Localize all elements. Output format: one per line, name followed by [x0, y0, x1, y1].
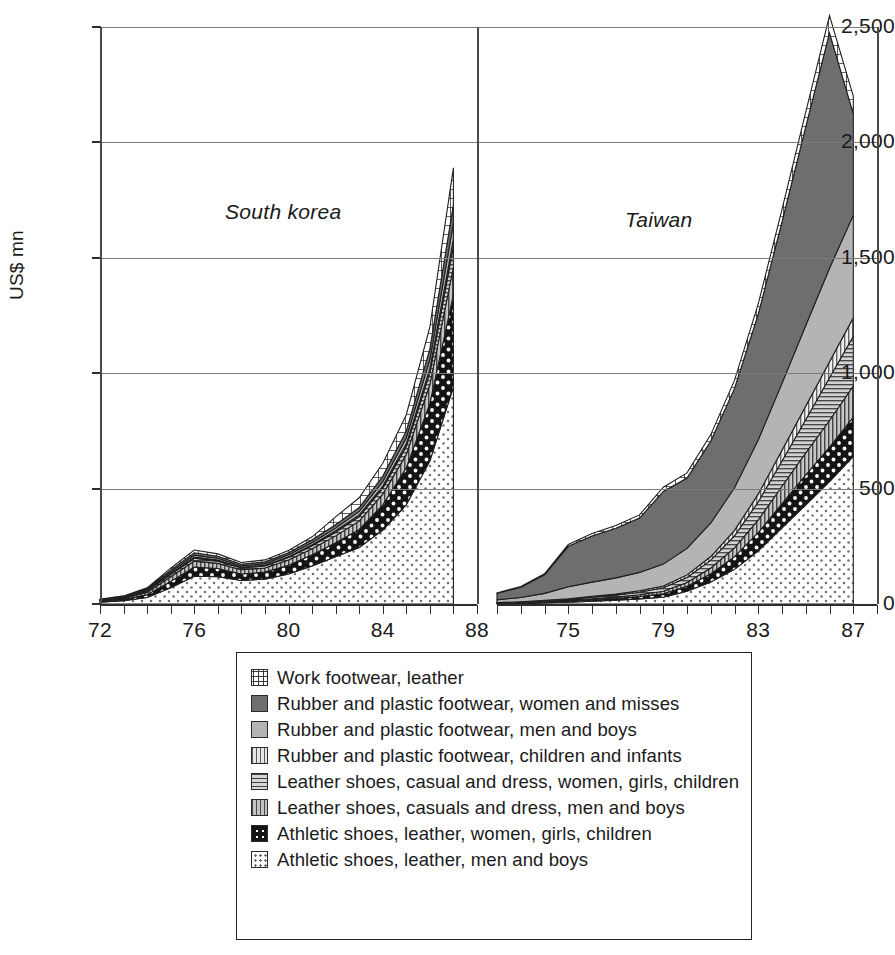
legend-swatch-icon: [251, 669, 268, 686]
x-tick-label: 76: [164, 618, 224, 642]
y-tick-label: 500: [807, 476, 895, 500]
legend-swatch-icon: [251, 851, 268, 868]
x-tick-mark: [336, 605, 337, 614]
x-tick-mark: [592, 605, 593, 614]
panel-title-south-korea: South korea: [225, 200, 342, 224]
x-tick-mark: [359, 605, 360, 614]
legend-item[interactable]: Rubber and plastic footwear, men and boy…: [251, 717, 741, 742]
y-tick-label: 1,000: [807, 360, 895, 384]
chart-legend: Work footwear, leatherRubber and plastic…: [236, 652, 752, 940]
y-tick-label: 2,500: [807, 14, 895, 38]
x-tick-label: 83: [728, 618, 788, 642]
y-tick-label: 2,000: [807, 129, 895, 153]
gridline: [100, 142, 877, 143]
x-tick-label: 88: [447, 618, 507, 642]
legend-swatch-icon: [251, 747, 268, 764]
legend-item[interactable]: Leather shoes, casuals and dress, men an…: [251, 795, 741, 820]
legend-label: Rubber and plastic footwear, men and boy…: [277, 717, 637, 742]
legend-label: Rubber and plastic footwear, children an…: [277, 743, 682, 768]
legend-swatch-icon: [251, 773, 268, 790]
x-tick-mark: [194, 605, 195, 614]
x-tick-mark: [853, 605, 854, 614]
y-tick-label: 0: [807, 591, 895, 615]
legend-item[interactable]: Leather shoes, casual and dress, women, …: [251, 769, 741, 794]
legend-item[interactable]: Rubber and plastic footwear, children an…: [251, 743, 741, 768]
x-tick-mark: [497, 605, 498, 614]
x-tick-mark: [100, 605, 101, 614]
x-tick-label: 80: [259, 618, 319, 642]
x-tick-mark: [289, 605, 290, 614]
y-tick-label: 1,500: [807, 245, 895, 269]
x-tick-mark: [430, 605, 431, 614]
legend-swatch-icon: [251, 799, 268, 816]
panel-title-taiwan: Taiwan: [625, 208, 693, 232]
x-tick-mark: [640, 605, 641, 614]
legend-label: Leather shoes, casuals and dress, men an…: [277, 795, 685, 820]
x-tick-label: 75: [538, 618, 598, 642]
legend-item[interactable]: Athletic shoes, leather, women, girls, c…: [251, 821, 741, 846]
x-tick-mark: [663, 605, 664, 614]
x-tick-mark: [453, 605, 454, 614]
x-tick-mark: [782, 605, 783, 614]
x-tick-mark: [241, 605, 242, 614]
x-tick-mark: [616, 605, 617, 614]
x-tick-mark: [383, 605, 384, 614]
legend-label: Rubber and plastic footwear, women and m…: [277, 691, 679, 716]
panel-right-axis: [477, 27, 479, 604]
x-tick-mark: [477, 605, 478, 614]
y-axis-line: [100, 27, 102, 604]
legend-label: Work footwear, leather: [277, 665, 464, 690]
legend-item[interactable]: Athletic shoes, leather, men and boys: [251, 847, 741, 872]
x-tick-mark: [147, 605, 148, 614]
panel-right-axis: [877, 27, 879, 604]
gridline: [100, 27, 877, 28]
x-tick-mark: [265, 605, 266, 614]
legend-label: Athletic shoes, leather, men and boys: [277, 847, 588, 872]
x-tick-mark: [406, 605, 407, 614]
x-tick-mark: [758, 605, 759, 614]
x-tick-label: 84: [353, 618, 413, 642]
x-tick-mark: [218, 605, 219, 614]
x-tick-mark: [521, 605, 522, 614]
chart-page: US$ mn 05001,0001,5002,0002,500: [0, 0, 895, 955]
stacked-area-chart: US$ mn 05001,0001,5002,0002,500: [0, 0, 895, 640]
x-tick-mark: [877, 605, 878, 614]
legend-swatch-icon: [251, 825, 268, 842]
gridline: [100, 489, 877, 490]
gridline: [100, 373, 877, 374]
x-tick-label: 72: [70, 618, 130, 642]
plot-canvas: [0, 0, 895, 640]
x-tick-mark: [545, 605, 546, 614]
legend-swatch-icon: [251, 695, 268, 712]
x-tick-mark: [806, 605, 807, 614]
x-tick-mark: [124, 605, 125, 614]
x-tick-label: 79: [633, 618, 693, 642]
gridline: [100, 258, 877, 259]
x-tick-mark: [830, 605, 831, 614]
x-tick-mark: [568, 605, 569, 614]
x-tick-mark: [711, 605, 712, 614]
legend-item[interactable]: Work footwear, leather: [251, 665, 741, 690]
x-tick-mark: [171, 605, 172, 614]
legend-swatch-icon: [251, 721, 268, 738]
legend-label: Athletic shoes, leather, women, girls, c…: [277, 821, 652, 846]
x-tick-label: 87: [823, 618, 883, 642]
x-tick-mark: [687, 605, 688, 614]
legend-label: Leather shoes, casual and dress, women, …: [277, 769, 739, 794]
legend-item[interactable]: Rubber and plastic footwear, women and m…: [251, 691, 741, 716]
x-tick-mark: [312, 605, 313, 614]
y-axis-label: US$ mn: [6, 230, 28, 300]
x-tick-mark: [735, 605, 736, 614]
